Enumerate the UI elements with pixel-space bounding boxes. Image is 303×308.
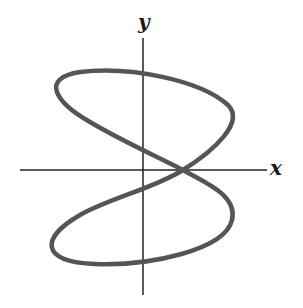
x-axis-label: x [270, 158, 282, 178]
parametric-curve-figure: y x [0, 0, 303, 308]
plot-canvas [0, 0, 303, 308]
y-axis-label: y [138, 12, 150, 32]
